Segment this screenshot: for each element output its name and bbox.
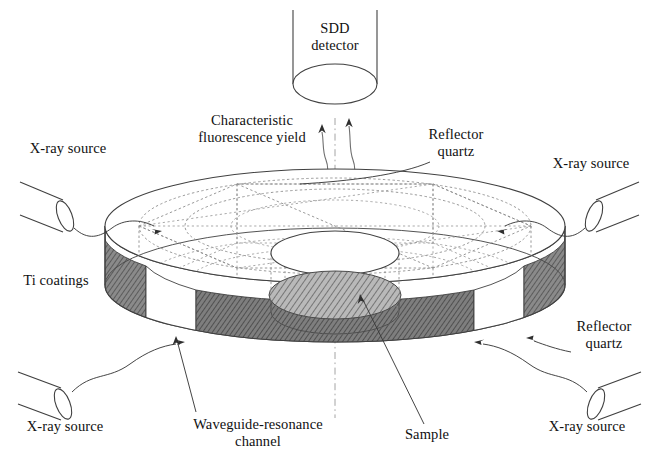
waveguide-resonance-channel-label: Waveguide-resonance channel	[168, 416, 348, 450]
xray-source-bottom-right-label: X-ray source	[530, 418, 644, 435]
xray-source-bottom-left-label: X-ray source	[8, 418, 122, 435]
sdd-detector-label: SDD detector	[292, 20, 378, 54]
xray-source-top-right-label: X-ray source	[534, 155, 648, 172]
xray-bottom-right-arrowhead	[474, 339, 484, 345]
sample-label: Sample	[396, 426, 458, 443]
xray-source-bottom-left-tube	[18, 372, 75, 421]
reflector-quartz-bottom-arrowhead	[526, 336, 536, 342]
xray-source-top-right-tube	[582, 182, 639, 233]
waveguide-label-leader	[178, 344, 196, 412]
characteristic-fluorescence-yield-label: Characteristic fluorescence yield	[178, 112, 326, 146]
sample-disc	[269, 271, 401, 319]
xray-bottom-left-beam	[72, 344, 176, 392]
ti-coatings-label: Ti coatings	[8, 272, 104, 289]
xray-source-top-left-label: X-ray source	[12, 140, 124, 157]
well-opening	[271, 231, 399, 275]
xray-source-top-left-tube	[20, 182, 77, 233]
xray-source-bottom-right-tube	[584, 372, 641, 421]
schematic-drawing	[0, 0, 659, 472]
txrf-schematic-figure: SDD detector Characteristic fluorescence…	[0, 0, 659, 472]
reflector-quartz-bottom-label: Reflector quartz	[552, 318, 656, 352]
reflector-quartz-top-label: Reflector quartz	[402, 126, 510, 160]
